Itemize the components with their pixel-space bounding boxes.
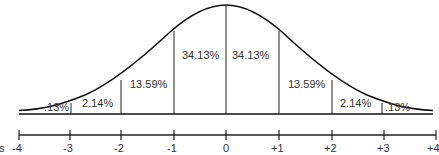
pct-label: 34.13% <box>182 49 220 61</box>
tick-label: 0 <box>223 142 229 154</box>
pct-label: 2.14% <box>82 97 113 109</box>
pct-label: .13% <box>385 101 410 113</box>
tick-label: +2 <box>324 142 337 154</box>
tick-label: +3 <box>377 142 390 154</box>
pct-label: 13.59% <box>130 78 168 90</box>
tick-label: +1 <box>271 142 284 154</box>
axis-prefix-label: s <box>0 142 5 154</box>
pct-label: .13% <box>44 101 69 113</box>
x-axis-tick-labels: s -4 -3 -2 -1 0 +1 +2 +3 +4 <box>0 142 439 154</box>
pct-label: 2.14% <box>340 97 371 109</box>
pct-label: 34.13% <box>232 49 270 61</box>
tick-label: +4 <box>427 142 439 154</box>
normal-distribution-chart: .13% 2.14% 13.59% 34.13% 34.13% 13.59% 2… <box>0 0 439 155</box>
pct-label: 13.59% <box>288 78 326 90</box>
tick-label: -4 <box>12 142 22 154</box>
percentage-labels: .13% 2.14% 13.59% 34.13% 34.13% 13.59% 2… <box>44 49 410 113</box>
tick-label: -3 <box>63 142 73 154</box>
tick-label: -1 <box>167 142 177 154</box>
tick-label: -2 <box>114 142 124 154</box>
sd-dividers <box>71 5 382 114</box>
